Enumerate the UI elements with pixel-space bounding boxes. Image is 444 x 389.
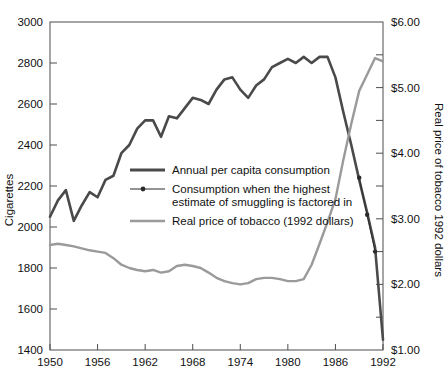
y-axis-left-tick-labels: 140016001800200022002400260028003000 xyxy=(17,16,43,356)
y-axis-right-title: Real price of tobacco 1992 dollars xyxy=(433,103,444,277)
legend-swatch-smuggling-dot xyxy=(141,187,146,192)
y-tick-label: 3000 xyxy=(17,16,43,28)
y2-tick-label: $4.00 xyxy=(391,147,420,159)
y-tick-label: 1600 xyxy=(17,303,43,315)
series-point xyxy=(373,249,377,253)
y2-tick-label: $6.00 xyxy=(391,16,420,28)
y-tick-label: 2200 xyxy=(17,180,43,192)
x-tick-label: 1992 xyxy=(370,356,396,368)
legend-label: Real price of tobacco (1992 dollars) xyxy=(172,215,354,227)
y-tick-label: 2000 xyxy=(17,221,43,233)
x-tick-label: 1986 xyxy=(323,356,349,368)
x-tick-label: 1968 xyxy=(180,356,206,368)
y-tick-label: 2400 xyxy=(17,139,43,151)
y2-tick-label: $2.00 xyxy=(391,278,420,290)
y-axis-left-title: Cigarettes xyxy=(3,174,15,227)
legend-label: Consumption when the highest xyxy=(172,183,331,195)
x-tick-label: 1974 xyxy=(227,356,253,368)
y-tick-label: 1400 xyxy=(17,344,43,356)
y-tick-label: 1800 xyxy=(17,262,43,274)
y2-tick-label: $3.00 xyxy=(391,213,420,225)
y-tick-label: 2800 xyxy=(17,57,43,69)
x-tick-label: 1950 xyxy=(37,356,63,368)
chart-container: 19501956196219681974198019861992 1400160… xyxy=(0,0,444,389)
series-point xyxy=(365,213,369,217)
legend-label: estimate of smuggling is factored in xyxy=(172,196,352,208)
chart-svg: 19501956196219681974198019861992 1400160… xyxy=(0,0,444,389)
x-tick-label: 1956 xyxy=(85,356,111,368)
series-point xyxy=(357,176,361,180)
y2-tick-label: $5.00 xyxy=(391,82,420,94)
legend-label: Annual per capita consumption xyxy=(172,164,330,176)
y-tick-label: 2600 xyxy=(17,98,43,110)
y2-tick-label: $1.00 xyxy=(391,344,420,356)
x-tick-label: 1962 xyxy=(132,356,158,368)
x-tick-label: 1980 xyxy=(275,356,301,368)
